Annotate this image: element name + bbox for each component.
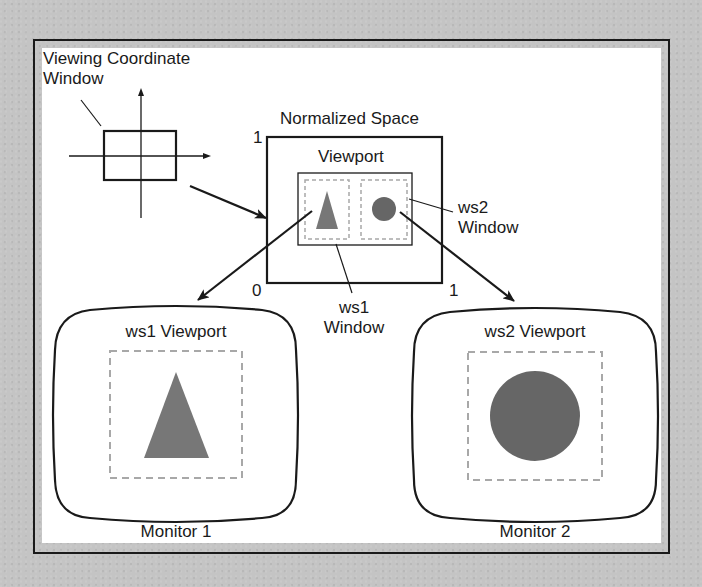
large-circle	[490, 371, 580, 461]
viewing-coordinate-axes	[69, 88, 211, 218]
ws1-window-label-line1: ws1	[339, 298, 369, 318]
arrow-to-normalized-space	[190, 186, 266, 218]
ws2-window-pointer	[409, 199, 453, 212]
ws2-viewport-label: ws2 Viewport	[485, 322, 586, 342]
large-triangle	[144, 372, 209, 458]
small-triangle	[316, 191, 338, 229]
ws2-window-label-line2: Window	[458, 218, 518, 238]
x-axis-arrowhead-icon	[203, 153, 211, 159]
y-axis-arrowhead-icon	[138, 88, 144, 96]
normalized-axis-right-label: 1	[449, 281, 458, 301]
monitor-2-caption: Monitor 2	[500, 522, 571, 542]
ws1-viewport-label: ws1 Viewport	[126, 322, 227, 342]
diagram-graphics	[0, 0, 702, 587]
monitor-1-caption: Monitor 1	[141, 522, 212, 542]
ws1-window-pointer	[336, 244, 352, 293]
viewport-label: Viewport	[318, 147, 384, 167]
ws2-window-label-line1: ws2	[458, 198, 488, 218]
viewing-window-pointer	[81, 100, 101, 126]
small-circle	[372, 197, 396, 221]
viewing-coordinate-label: Viewing Coordinate	[43, 49, 190, 69]
ws1-window-label-line2: Window	[324, 318, 384, 338]
normalized-space-label: Normalized Space	[280, 109, 419, 129]
normalized-axis-top-label: 1	[253, 128, 262, 148]
viewing-window-label: Window	[43, 69, 103, 89]
diagram-stage: Viewing Coordinate Window Normalized Spa…	[0, 0, 702, 587]
normalized-origin-label: 0	[252, 281, 261, 301]
